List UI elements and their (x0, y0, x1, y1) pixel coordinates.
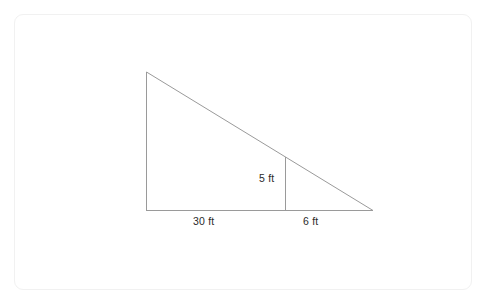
label-base-right: 6 ft (303, 215, 318, 227)
label-base-left: 30 ft (193, 215, 214, 227)
diagram-canvas: 30 ft 6 ft 5 ft (0, 0, 488, 306)
label-inner-height: 5 ft (259, 172, 274, 184)
triangle-diagram (0, 0, 488, 306)
triangle-hypotenuse (147, 72, 374, 211)
